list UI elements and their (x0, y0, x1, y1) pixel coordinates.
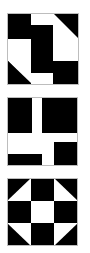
quilt-tile-2 (7, 97, 78, 166)
interlocking-block-icon (7, 13, 79, 85)
quilt-tile-1 (7, 13, 79, 85)
quilt-tile-3 (7, 178, 78, 246)
cross-block-icon (7, 97, 78, 166)
shoo-fly-block-icon (7, 178, 78, 246)
